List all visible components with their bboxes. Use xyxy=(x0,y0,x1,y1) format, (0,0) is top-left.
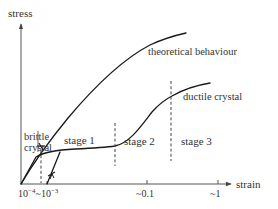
ductile-label: ductile crystal xyxy=(183,91,242,102)
tick-label-1e-4-1e-3: 10−4~10−3 xyxy=(18,187,59,199)
stage-2-label: stage 2 xyxy=(124,135,155,147)
tick-label-1: ~1 xyxy=(210,188,220,199)
stage-3-label: stage 3 xyxy=(181,135,212,147)
y-axis-label: stress xyxy=(8,7,32,19)
brittle-label-line1: brittle xyxy=(24,131,49,142)
x-axis-label: strain xyxy=(236,178,261,190)
stage-1-label: stage 1 xyxy=(64,134,95,146)
stress-strain-diagram: stress strain 10−4~10−3 ~0.1 ~1 theoreti… xyxy=(0,0,278,209)
theoretical-label: theoretical behaviour xyxy=(148,46,237,57)
tick-label-0.1: ~0.1 xyxy=(136,188,154,199)
unloading-line xyxy=(47,152,60,184)
